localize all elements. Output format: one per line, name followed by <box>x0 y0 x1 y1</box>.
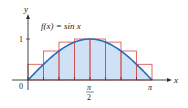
x-tick-label-half-pi-denominator: 2 <box>87 93 91 102</box>
x-axis-label: x <box>173 75 178 85</box>
function-label: f(x) = sin x <box>41 21 81 31</box>
y-axis-label: y <box>23 4 28 14</box>
x-tick-label-pi: π <box>148 83 153 92</box>
origin-label: 0 <box>19 82 23 91</box>
riemann-sum-diagram: y x f(x) = sin x 1 0 π 2 π <box>0 0 188 108</box>
x-axis-arrow-icon <box>167 78 172 82</box>
x-tick-label-half-pi-numerator: π <box>87 83 92 92</box>
y-axis-arrow-icon <box>26 14 30 19</box>
y-tick-label-one: 1 <box>19 35 23 44</box>
